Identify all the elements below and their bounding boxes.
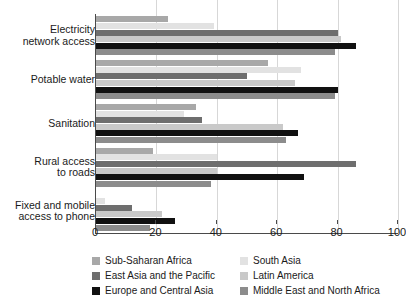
bar	[96, 16, 168, 22]
bar	[96, 211, 162, 217]
legend-item[interactable]: East Asia and the Pacific	[92, 270, 240, 281]
x-tick-mark	[216, 220, 217, 224]
x-tick-label: 80	[330, 226, 342, 238]
category-label: Rural access to roads	[0, 156, 95, 179]
x-tick-mark	[397, 220, 398, 224]
category-label: Sanitation	[0, 118, 95, 130]
bar	[96, 218, 175, 224]
bar	[96, 225, 150, 231]
bar	[96, 80, 295, 86]
bar	[96, 205, 132, 211]
chart-legend: Sub-Saharan AfricaSouth AsiaEast Asia an…	[92, 253, 406, 298]
bar	[96, 181, 211, 187]
legend-label: Latin America	[253, 270, 314, 281]
bar	[96, 49, 335, 55]
category-label: Potable water	[0, 74, 95, 86]
x-tick-label: 40	[210, 226, 222, 238]
x-tick-mark	[95, 220, 96, 224]
x-tick-label: 0	[92, 226, 98, 238]
bar	[96, 148, 153, 154]
bar	[96, 124, 283, 130]
legend-swatch	[240, 257, 248, 265]
legend-item[interactable]: Sub-Saharan Africa	[92, 255, 240, 266]
legend-label: South Asia	[253, 255, 301, 266]
plot-area	[95, 14, 398, 234]
legend-label: East Asia and the Pacific	[105, 270, 215, 281]
x-tick-label: 20	[149, 226, 161, 238]
x-tick-mark	[155, 220, 156, 224]
x-tick-label: 60	[270, 226, 282, 238]
bar	[96, 67, 301, 73]
legend-label: Europe and Central Asia	[105, 285, 213, 296]
legend-swatch	[240, 287, 248, 295]
category-label: Fixed and mobile access to phone	[0, 200, 95, 223]
legend-item[interactable]: Europe and Central Asia	[92, 285, 240, 296]
bar	[96, 93, 335, 99]
category-label: Electricity network access	[0, 24, 95, 47]
x-tick-mark	[276, 220, 277, 224]
bar	[96, 60, 268, 66]
bar	[96, 104, 196, 110]
bar	[96, 174, 304, 180]
legend-item[interactable]: South Asia	[240, 255, 406, 266]
gridline	[338, 0, 339, 233]
plot-wrapper: Electricity network accessPotable waterS…	[0, 0, 406, 248]
bar	[96, 87, 338, 93]
x-tick-label: 100	[388, 226, 406, 238]
gridline	[398, 0, 399, 233]
legend-item[interactable]: Latin America	[240, 270, 406, 281]
bar	[96, 161, 356, 167]
bar	[96, 30, 338, 36]
legend-swatch	[240, 272, 248, 280]
bar	[96, 111, 184, 117]
bar	[96, 117, 202, 123]
bar	[96, 130, 298, 136]
legend-swatch	[92, 257, 100, 265]
bar	[96, 168, 217, 174]
bar	[96, 36, 341, 42]
bar	[96, 73, 247, 79]
legend-label: Middle East and North Africa	[253, 285, 380, 296]
bar	[96, 137, 286, 143]
bar-chart: Electricity network accessPotable waterS…	[0, 0, 406, 307]
bar	[96, 154, 217, 160]
legend-item[interactable]: Middle East and North Africa	[240, 285, 406, 296]
bar	[96, 43, 356, 49]
legend-swatch	[92, 272, 100, 280]
x-tick-mark	[337, 220, 338, 224]
legend-label: Sub-Saharan Africa	[105, 255, 192, 266]
legend-swatch	[92, 287, 100, 295]
bar	[96, 198, 105, 204]
bar	[96, 23, 214, 29]
